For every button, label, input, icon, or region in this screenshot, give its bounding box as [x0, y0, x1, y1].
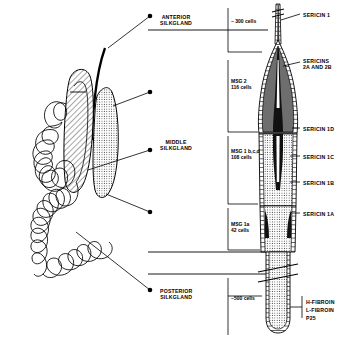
leader-dot-msg2 — [148, 90, 153, 95]
cell-count-anterior-cells: ~ 300 cells — [231, 18, 256, 24]
leader-dot-anterior — [148, 14, 153, 19]
cell-count-msg1a: MSG 1a 42 cells — [231, 221, 249, 233]
protein-label-sericin-1c: SERICIN 1C — [303, 154, 334, 160]
leader-dot-msg1a — [148, 210, 153, 215]
fibroin-label-h-fibroin: H-FIBROIN — [306, 299, 335, 305]
protein-label-sericin-1a: SERICIN 1A — [303, 211, 334, 217]
region-label-anterior: ANTERIOR SILKGLAND — [160, 14, 192, 26]
region-label-posterior: POSTERIOR SILKGLAND — [160, 288, 192, 300]
leader-dot-msg1bcd — [148, 148, 153, 153]
protein-label-sericin-1: SERICIN 1 — [303, 12, 330, 18]
protein-label-sericins-2ab: SERICINS 2A and 2B — [303, 58, 332, 70]
leader-dot-posterior — [148, 288, 153, 293]
cell-count-posterior-cells: ~500 cells — [231, 295, 255, 301]
msg1bcd-core-lumen — [276, 136, 279, 182]
cell-count-msg1bcd: MSG 1 b,c,d 108 cells — [231, 148, 260, 160]
fibroin-label-l-fibroin: L-FIBROIN — [306, 307, 334, 313]
fibroin-label-p25: P25 — [306, 315, 316, 321]
protein-label-sericin-1d: SERICIN 1D — [303, 126, 334, 132]
cell-count-msg2: MSG 2 116 cells — [231, 78, 252, 90]
posterior-lumen-fibroin — [269, 252, 287, 329]
protein-label-sericin-1b: SERICIN 1B — [303, 180, 334, 186]
region-label-middle: MIDDLE SILKGLAND — [160, 139, 192, 151]
